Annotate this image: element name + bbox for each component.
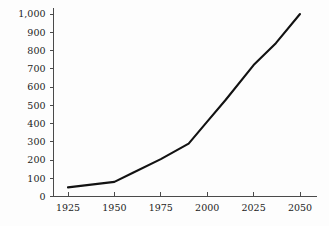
y-axis-tick-label: 1,000 — [18, 8, 45, 19]
x-axis-tick-label-group: 192519501975200020252050 — [56, 202, 312, 213]
x-axis-tick-label: 2000 — [195, 202, 219, 213]
x-axis-tick-label: 1925 — [56, 202, 80, 213]
y-axis-tick-label: 0 — [39, 191, 45, 202]
y-axis-tick-label: 500 — [27, 100, 45, 111]
x-axis-tick-label: 2025 — [242, 202, 266, 213]
y-axis-tick-label: 600 — [27, 81, 45, 92]
x-axis-tick-mark-group — [68, 192, 300, 197]
y-axis-tick-label: 900 — [27, 27, 45, 38]
y-axis-tick-label-group: 01002003004005006007008009001,000 — [18, 8, 45, 202]
x-axis-tick-label: 1950 — [102, 202, 126, 213]
x-axis-tick-label: 2050 — [288, 202, 312, 213]
y-axis-tick-label: 700 — [27, 63, 45, 74]
y-axis-tick-label: 300 — [27, 136, 45, 147]
y-axis-tick-label: 400 — [27, 118, 45, 129]
data-line-series-1 — [68, 14, 300, 187]
chart-canvas: 01002003004005006007008009001,000 192519… — [0, 0, 329, 226]
y-axis-tick-mark-group — [50, 14, 54, 197]
y-axis-tick-label: 100 — [27, 173, 45, 184]
line-chart: 01002003004005006007008009001,000 192519… — [0, 0, 329, 226]
x-axis-tick-label: 1975 — [149, 202, 173, 213]
y-axis-tick-label: 200 — [27, 154, 45, 165]
y-axis-tick-label: 800 — [27, 45, 45, 56]
